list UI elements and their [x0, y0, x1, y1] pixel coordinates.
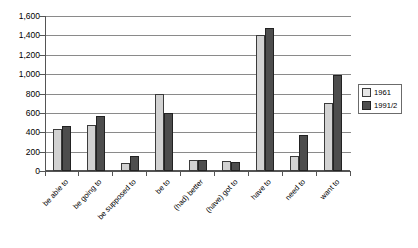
- bar-group: [113, 16, 147, 171]
- y-axis-tick-label: 1,600: [19, 12, 40, 21]
- legend-label: 1961: [374, 89, 391, 97]
- bar-group: [282, 16, 316, 171]
- x-axis-label-cell: need to: [282, 177, 316, 247]
- x-axis-tick-mark: [79, 171, 113, 176]
- bar-group: [214, 16, 248, 171]
- legend-item: 1961: [362, 88, 397, 97]
- legend-swatch-icon: [362, 88, 371, 97]
- y-axis-tick-label: 1,000: [19, 70, 40, 79]
- bar-group: [248, 16, 282, 171]
- bar-group: [45, 16, 79, 171]
- bar: [130, 156, 139, 171]
- bar: [231, 162, 240, 171]
- bar-group: [79, 16, 113, 171]
- x-axis-category-label: be to: [154, 178, 171, 196]
- x-axis-tick-mark: [45, 171, 79, 176]
- bar: [53, 129, 62, 171]
- bar: [189, 160, 198, 171]
- y-axis-tick-label: 200: [26, 148, 40, 157]
- bar: [164, 113, 173, 171]
- x-axis-labels: be able tobe going tobe supposed tobe to…: [45, 177, 350, 247]
- x-axis-label-cell: (have) got to: [214, 177, 248, 247]
- legend-label: 1991/2: [374, 102, 397, 110]
- x-axis-label-cell: want to: [316, 177, 350, 247]
- legend-swatch-icon: [362, 101, 371, 110]
- y-axis-tick-label: 800: [26, 90, 40, 99]
- bar-group: [316, 16, 350, 171]
- bar: [299, 135, 308, 171]
- legend-item: 1991/2: [362, 101, 397, 110]
- bar: [222, 161, 231, 171]
- bar: [96, 116, 105, 171]
- x-axis-category-label: be able to: [41, 178, 69, 208]
- x-axis-tick-mark: [282, 171, 316, 176]
- x-axis-tick-mark: [147, 171, 181, 176]
- bar: [324, 103, 333, 171]
- x-axis-tick-mark: [181, 171, 215, 176]
- y-axis-tick-label: 600: [26, 109, 40, 118]
- x-axis-tick-mark: [248, 171, 282, 176]
- bar-group: [147, 16, 181, 171]
- bar-chart: 1,6001,4001,2001,0008006004002000 be abl…: [0, 0, 418, 248]
- bar: [265, 28, 274, 171]
- bar: [87, 125, 96, 172]
- x-axis-category-label: want to: [318, 178, 340, 201]
- bar: [121, 163, 130, 171]
- x-axis-label-cell: have to: [248, 177, 282, 247]
- x-axis-tick-mark: [316, 171, 350, 176]
- bar: [333, 75, 342, 171]
- x-axis-category-label: have to: [250, 178, 273, 201]
- bar: [155, 94, 164, 172]
- x-axis-tick-mark: [113, 171, 147, 176]
- y-axis-tick-label: 400: [26, 128, 40, 137]
- x-axis-category-label: need to: [284, 178, 307, 202]
- y-axis-tick-label: 1,200: [19, 51, 40, 60]
- x-axis-label-cell: be able to: [45, 177, 79, 247]
- x-axis-ticks: [45, 171, 350, 176]
- bar-groups: [45, 16, 350, 171]
- bar: [62, 126, 71, 171]
- bar: [256, 35, 265, 171]
- x-axis-label-cell: be supposed to: [113, 177, 147, 247]
- chart-legend: 19611991/2: [358, 84, 402, 114]
- x-axis-tick-mark: [214, 171, 248, 176]
- bar-group: [181, 16, 215, 171]
- x-axis-label-cell: be to: [147, 177, 181, 247]
- bar: [198, 160, 207, 171]
- y-axis-tick-label: 1,400: [19, 31, 40, 40]
- bar: [290, 156, 299, 171]
